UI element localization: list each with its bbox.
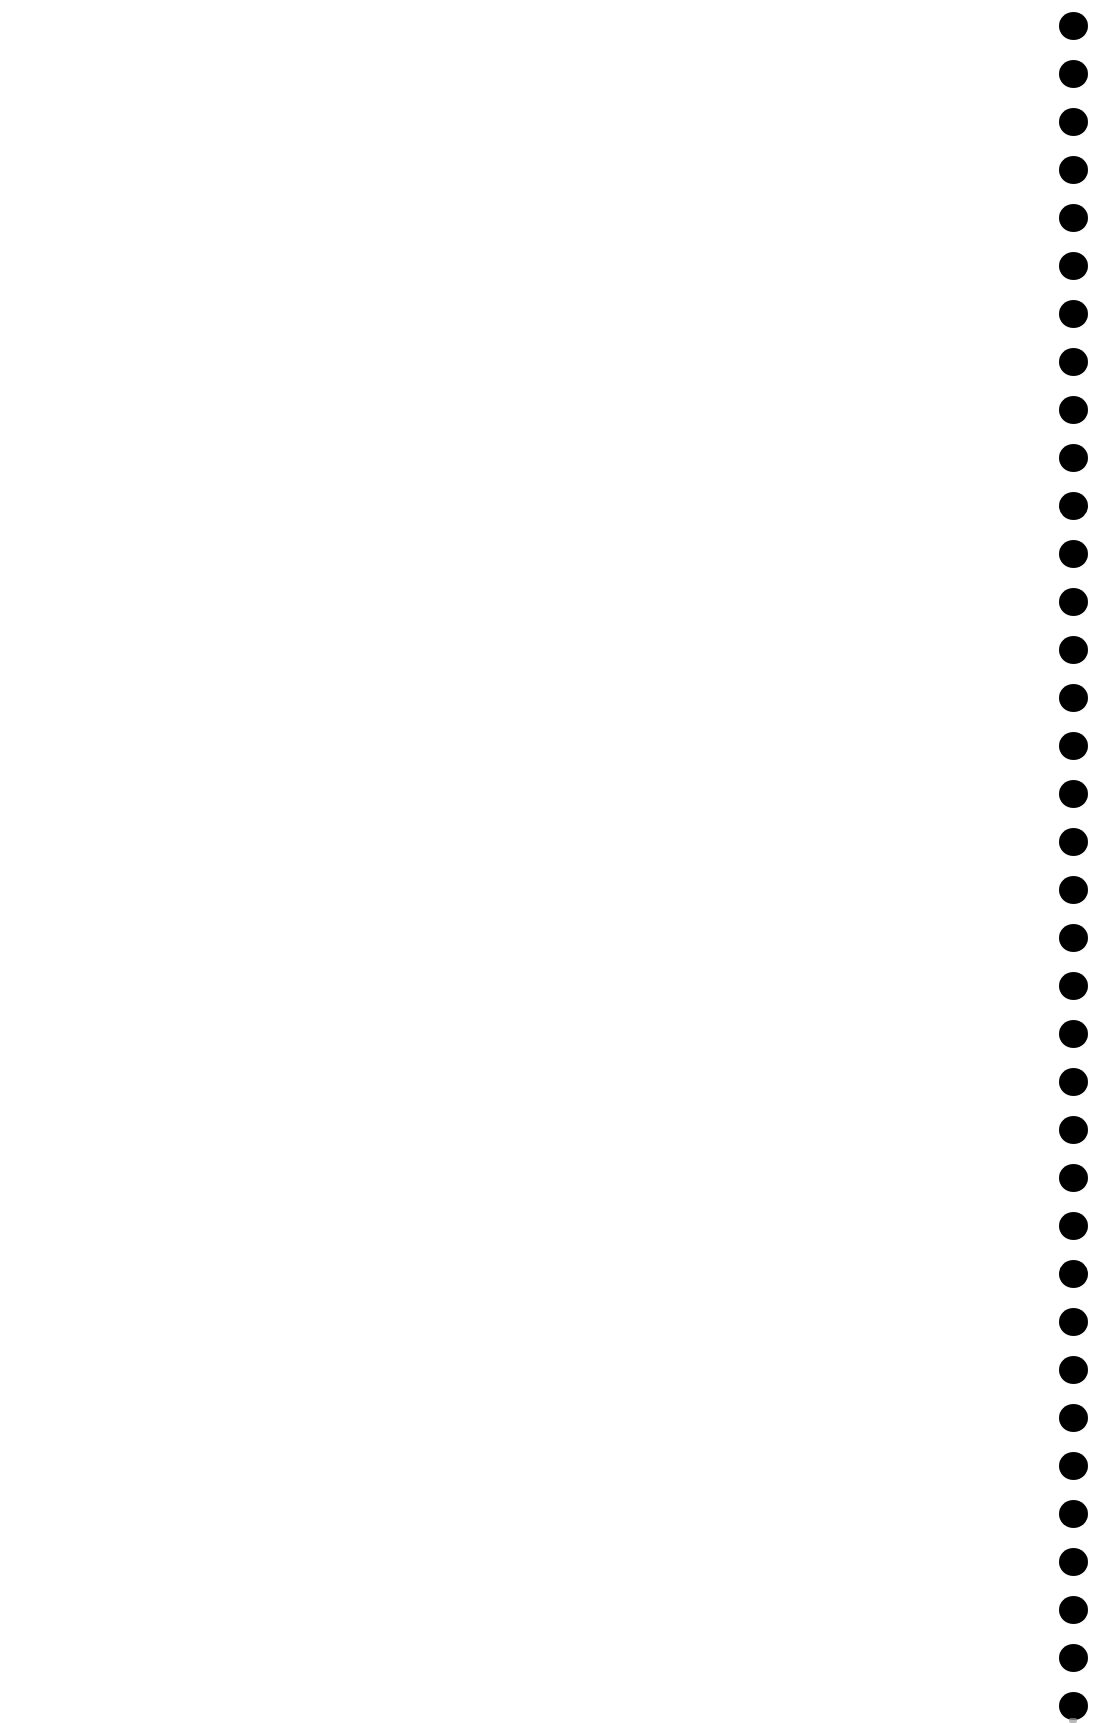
dot-icon bbox=[1059, 108, 1088, 136]
dot-icon bbox=[1059, 300, 1088, 328]
dot-icon bbox=[1059, 1452, 1088, 1480]
dot-icon bbox=[1059, 1644, 1088, 1672]
dot-icon bbox=[1059, 1596, 1088, 1624]
blank-canvas bbox=[0, 0, 1103, 1723]
dot-icon bbox=[1059, 1212, 1088, 1240]
dot-icon bbox=[1059, 1692, 1088, 1720]
dot-icon bbox=[1059, 636, 1088, 664]
dot-icon bbox=[1059, 540, 1088, 568]
dot-icon bbox=[1059, 684, 1088, 712]
dot-icon bbox=[1059, 828, 1088, 856]
dot-icon bbox=[1059, 1164, 1088, 1192]
dot-icon bbox=[1059, 1548, 1088, 1576]
dot-icon bbox=[1059, 1260, 1088, 1288]
vertical-dots-icon bbox=[1059, 0, 1088, 1723]
dot-icon bbox=[1059, 732, 1088, 760]
dot-icon bbox=[1059, 1500, 1088, 1528]
dot-icon bbox=[1059, 876, 1088, 904]
dot-icon bbox=[1059, 1404, 1088, 1432]
dot-icon bbox=[1059, 972, 1088, 1000]
dot-icon bbox=[1059, 204, 1088, 232]
dot-icon bbox=[1059, 588, 1088, 616]
dot-icon bbox=[1059, 348, 1088, 376]
dot-icon bbox=[1059, 252, 1088, 280]
dot-icon bbox=[1059, 1308, 1088, 1336]
dot-icon bbox=[1059, 12, 1088, 40]
dot-icon bbox=[1059, 1356, 1088, 1384]
dot-icon bbox=[1059, 924, 1088, 952]
dot-icon bbox=[1059, 60, 1088, 88]
dot-icon bbox=[1059, 396, 1088, 424]
dot-artifact bbox=[1069, 1718, 1077, 1723]
dot-icon bbox=[1059, 492, 1088, 520]
dot-icon bbox=[1059, 780, 1088, 808]
dot-icon bbox=[1059, 156, 1088, 184]
dot-icon bbox=[1059, 1068, 1088, 1096]
dot-icon bbox=[1059, 444, 1088, 472]
dot-icon bbox=[1059, 1020, 1088, 1048]
dot-icon bbox=[1059, 1116, 1088, 1144]
